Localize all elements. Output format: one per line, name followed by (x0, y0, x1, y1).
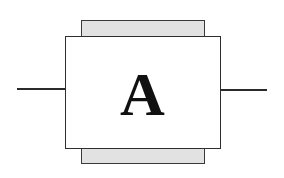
component-box: A (65, 36, 221, 149)
bottom-shaded-pad (81, 147, 205, 164)
right-lead-line (219, 89, 267, 91)
top-shaded-pad (81, 20, 205, 37)
component-label: A (66, 63, 219, 125)
left-lead-line (17, 88, 66, 90)
